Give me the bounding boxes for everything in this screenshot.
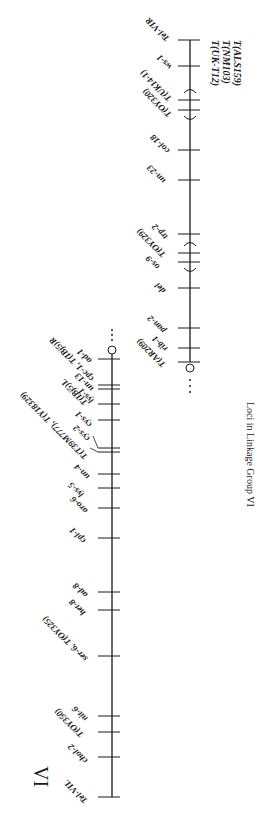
left-arm-labels: ad-1 cpc-1, T(IBj5)R un-13 T(IBj5)L lys-… bbox=[18, 335, 96, 805]
trans-label-uk-t12: T(UK-T12) bbox=[209, 40, 221, 86]
right-arm-continuation-dots bbox=[189, 379, 191, 393]
left-arm-continuation-dots bbox=[111, 329, 113, 341]
locus-label: un-4 bbox=[72, 462, 92, 482]
leader-t-t39m777 bbox=[90, 448, 98, 452]
locus-label: Tel-VIR bbox=[143, 16, 171, 44]
right-arm-labels: Tel-VIR ws-1 T(UK14-1) T(OY320) col-18 u… bbox=[134, 16, 173, 370]
locus-label: un-23 bbox=[144, 163, 167, 186]
right-arm bbox=[178, 40, 200, 372]
locus-label: ws-1 bbox=[154, 53, 173, 72]
left-arm-terminal-circle bbox=[108, 346, 116, 354]
locus-label: del bbox=[152, 280, 167, 295]
locus-label: cpl-1 bbox=[67, 526, 87, 546]
locus-label: ser-6, T(OY325) bbox=[40, 614, 90, 664]
right-side-translocations: T(UK-T12) T(NM103) T(ALS159) bbox=[209, 40, 243, 86]
locus-label: het-8 bbox=[67, 597, 88, 618]
locus-label: Tel-VIL bbox=[61, 778, 89, 806]
right-arm-terminal-circle bbox=[186, 364, 194, 372]
locus-label: col-18 bbox=[148, 132, 172, 156]
left-arm bbox=[90, 346, 120, 797]
locus-label: chol-2 bbox=[65, 742, 89, 766]
locus-label: ad-8 bbox=[70, 581, 89, 600]
locus-label: pan-2 bbox=[145, 313, 168, 336]
trans-label-als159: T(ALS159) bbox=[231, 40, 243, 86]
linkage-map: T(UK-T12) T(NM103) T(ALS159) Tel-VIR ws-… bbox=[0, 0, 262, 818]
figure-caption: Loci in Linkage Group VI bbox=[245, 402, 256, 507]
leader-cys-2 bbox=[93, 436, 98, 448]
trans-label-nm103: T(NM103) bbox=[220, 40, 232, 84]
group-numeral: VI bbox=[30, 766, 52, 787]
